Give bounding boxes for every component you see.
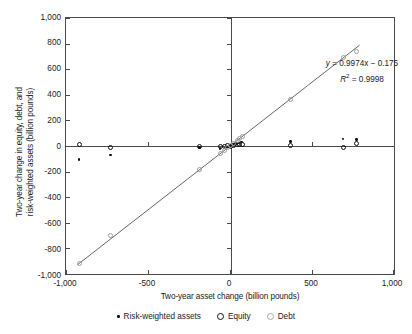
data-point-risk-weighted-assets: [78, 158, 81, 161]
data-point-risk-weighted-assets: [109, 154, 112, 157]
y-tick-label: 600: [17, 64, 61, 73]
r-squared-line: R2 = 0.9998: [304, 70, 412, 85]
x-tick-label: 500: [281, 279, 341, 288]
y-tick-mark: [66, 274, 70, 275]
regression-equation-annotation: y = 0.9974x − 0.175 R2 = 0.9998: [304, 58, 412, 85]
gray-open-circle-icon: [267, 313, 274, 320]
data-point-debt: [77, 261, 82, 266]
scatter-chart-figure: Two-year change in equity, debt, and ris…: [0, 0, 412, 334]
filled-circle-icon: [117, 315, 120, 318]
data-point-equity: [354, 141, 359, 146]
y-tick-label: 0: [17, 142, 61, 151]
r-squared-rest: = 0.9998: [350, 74, 384, 83]
data-point-equity: [288, 143, 293, 148]
y-tick-label: -600: [17, 219, 61, 228]
legend-label: Equity: [228, 312, 251, 321]
data-point-equity: [108, 145, 113, 150]
y-tick-label: -400: [17, 193, 61, 202]
equation-rest: = 0.9974x − 0.175: [330, 59, 398, 68]
data-point-debt: [288, 97, 293, 102]
data-point-equity: [77, 142, 82, 147]
y-tick-label: 400: [17, 90, 61, 99]
legend-label: Risk-weighted assets: [124, 312, 201, 321]
data-point-equity: [341, 145, 346, 150]
y-tick-label: -200: [17, 167, 61, 176]
x-axis-label: Two-year asset change (billion pounds): [65, 292, 395, 301]
data-point-debt: [354, 49, 359, 54]
legend-item-debt: Debt: [267, 312, 295, 321]
x-tick-label: 1,000: [362, 279, 412, 288]
plot-area: y = 0.9974x − 0.175 R2 = 0.9998: [65, 17, 395, 275]
data-point-equity: [240, 142, 245, 147]
legend-item-risk-weighted-assets: Risk-weighted assets: [117, 312, 201, 321]
y-tick-label: 200: [17, 116, 61, 125]
x-tick-label: 0: [199, 279, 259, 288]
data-point-risk-weighted-assets: [342, 138, 345, 141]
data-point-debt: [197, 167, 202, 172]
data-point-debt: [240, 134, 245, 139]
y-tick-label: -800: [17, 245, 61, 254]
legend-item-equity: Equity: [217, 312, 251, 321]
data-points-layer: [66, 18, 394, 274]
data-point-debt: [108, 233, 113, 238]
legend-label: Debt: [278, 312, 295, 321]
y-tick-label: 800: [17, 38, 61, 47]
chart-legend: Risk-weighted assets Equity Debt: [0, 312, 412, 321]
data-point-equity: [197, 144, 202, 149]
open-circle-icon: [217, 313, 224, 320]
equation-line: y = 0.9974x − 0.175: [304, 58, 412, 70]
x-tick-label: -1,000: [35, 279, 95, 288]
y-tick-label: 1,000: [17, 13, 61, 22]
x-tick-label: -500: [117, 279, 177, 288]
